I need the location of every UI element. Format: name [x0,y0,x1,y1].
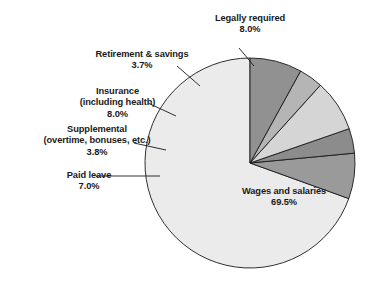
slice-label-paid-leave-value: 7.0% [44,181,134,192]
slice-label-retirement: Retirement & savings 3.7% [79,49,205,72]
slice-label-supplemental-name: Supplemental [19,124,175,135]
slice-label-paid-leave: Paid leave 7.0% [44,170,134,193]
slice-label-insurance-value: 8.0% [55,109,180,120]
pie-chart-figure: Legally required 8.0% Retirement & savin… [0,0,378,290]
slice-label-paid-leave-name: Paid leave [44,170,134,181]
slice-label-insurance-detail: (including health) [55,97,180,108]
slice-label-legally-required-name: Legally required [188,13,312,24]
slice-label-insurance-name: Insurance [55,86,180,97]
slice-label-wages: Wages and salaries 69.5% [228,186,340,209]
slice-label-retirement-name: Retirement & savings [79,49,205,60]
slice-label-retirement-value: 3.7% [79,60,205,71]
slice-label-supplemental-detail: (overtime, bonuses, etc.) [19,135,175,146]
slice-label-wages-name: Wages and salaries [228,186,340,197]
slice-label-legally-required: Legally required 8.0% [188,13,312,36]
slice-label-insurance: Insurance (including health) 8.0% [55,86,180,120]
slice-label-supplemental: Supplemental (overtime, bonuses, etc.) 3… [19,124,175,158]
slice-label-legally-required-value: 8.0% [188,24,312,35]
slice-label-supplemental-value: 3.8% [19,147,175,158]
slice-label-wages-value: 69.5% [228,197,340,208]
